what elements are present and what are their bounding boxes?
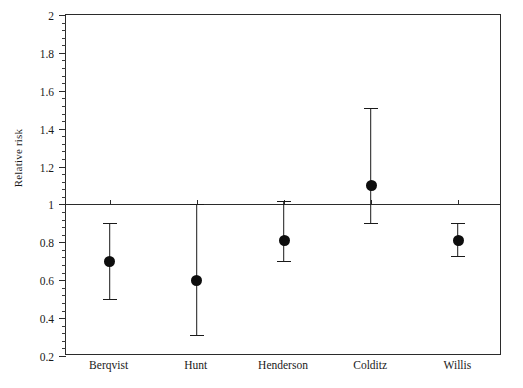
y-tick-minor (62, 326, 66, 327)
confidence-interval-cap-upper (103, 223, 117, 224)
y-tick-minor (62, 341, 66, 342)
confidence-interval-cap-lower (364, 223, 378, 224)
y-tick-label: 1.6 (40, 86, 54, 98)
y-tick-minor (62, 121, 66, 122)
x-axis-label: Willis (444, 359, 472, 371)
y-tick-minor (62, 98, 66, 99)
y-tick-label: 0.4 (40, 313, 54, 325)
y-tick-minor (62, 250, 66, 251)
y-tick-minor (62, 288, 66, 289)
y-tick-label: 0.6 (40, 275, 54, 287)
y-tick-minor (62, 273, 66, 274)
y-tick-minor (62, 227, 66, 228)
y-tick-minor (62, 136, 66, 137)
y-tick-minor (62, 257, 66, 258)
y-tick-minor (62, 83, 66, 84)
forest-plot-figure: Relative risk 21.81.61.41.210.80.60.40.2… (0, 0, 523, 388)
y-tick-minor (62, 68, 66, 69)
confidence-interval-cap-lower (451, 256, 465, 257)
y-tick-major: 0.6 (59, 280, 66, 281)
plot-area: 21.81.61.41.210.80.60.40.2 (65, 14, 501, 355)
y-tick-minor (62, 303, 66, 304)
y-tick-label: 0.2 (40, 351, 54, 363)
confidence-interval-cap-upper (277, 201, 291, 202)
y-tick-label: 1.4 (40, 124, 54, 136)
data-point-marker (191, 275, 202, 286)
y-tick-minor (62, 174, 66, 175)
y-tick-minor (62, 311, 66, 312)
data-point-marker (104, 256, 115, 267)
y-tick-minor (62, 265, 66, 266)
y-tick-minor (62, 333, 66, 334)
y-tick-minor (62, 348, 66, 349)
y-tick-major: 2 (59, 15, 66, 16)
y-axis-title: Relative risk (12, 108, 24, 208)
confidence-interval-bar (196, 204, 197, 335)
x-axis-label: Berqvist (89, 359, 128, 371)
data-point-marker (279, 235, 290, 246)
y-tick-minor (62, 295, 66, 296)
data-point-marker (366, 180, 377, 191)
y-tick-minor (62, 197, 66, 198)
confidence-interval-cap-lower (190, 335, 204, 336)
y-tick-minor (62, 60, 66, 61)
confidence-interval-cap-upper (451, 223, 465, 224)
y-tick-major: 0.4 (59, 318, 66, 319)
y-tick-minor (62, 151, 66, 152)
y-tick-minor (62, 189, 66, 190)
y-tick-minor (62, 159, 66, 160)
y-tick-major: 1.4 (59, 129, 66, 130)
x-axis-label: Hunt (184, 359, 207, 371)
data-point-marker (453, 235, 464, 246)
y-tick-label: 1.8 (40, 48, 54, 60)
y-tick-label: 2 (48, 10, 54, 22)
y-tick-major: 0.2 (59, 356, 66, 357)
y-tick-label: 1 (48, 199, 54, 211)
confidence-interval-bar (283, 201, 284, 262)
y-tick-label: 1.2 (40, 162, 54, 174)
y-tick-minor (62, 235, 66, 236)
y-tick-minor (62, 45, 66, 46)
confidence-interval-bar (370, 108, 371, 224)
y-tick-minor (62, 106, 66, 107)
x-axis-label: Henderson (258, 359, 308, 371)
y-tick-label: 0.8 (40, 237, 54, 249)
x-axis-label: Colditz (353, 359, 387, 371)
y-tick-major: 0.8 (59, 242, 66, 243)
y-tick-minor (62, 23, 66, 24)
y-tick-minor (62, 38, 66, 39)
reference-line-tick (110, 200, 111, 205)
y-tick-minor (62, 212, 66, 213)
y-tick-minor (62, 30, 66, 31)
y-tick-major: 1.6 (59, 91, 66, 92)
reference-line-tick (458, 200, 459, 205)
y-tick-major: 1.8 (59, 53, 66, 54)
y-tick-minor (62, 114, 66, 115)
y-tick-minor (62, 144, 66, 145)
confidence-interval-cap-lower (277, 261, 291, 262)
confidence-interval-cap-upper (364, 108, 378, 109)
confidence-interval-cap-upper (190, 204, 204, 205)
y-tick-minor (62, 220, 66, 221)
y-tick-minor (62, 76, 66, 77)
y-tick-major: 1 (59, 204, 66, 205)
y-tick-major: 1.2 (59, 167, 66, 168)
y-tick-minor (62, 182, 66, 183)
confidence-interval-cap-lower (103, 299, 117, 300)
